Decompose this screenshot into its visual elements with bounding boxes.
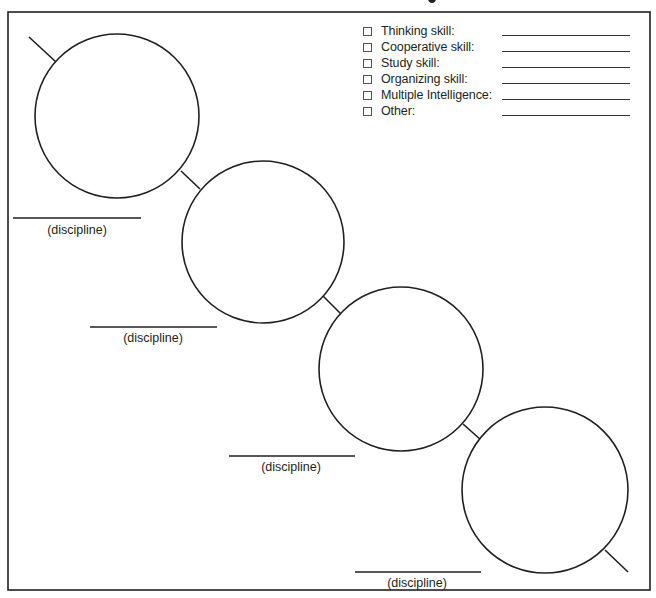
checklist-item-organizing-skill: Organizing skill: [358,71,638,87]
skill-checklist: Thinking skill: Cooperative skill: Study… [358,23,638,119]
organizing-skill-checkbox[interactable] [363,75,372,84]
cooperative-skill-checkbox[interactable] [363,43,372,52]
study-skill-label: Study skill: [381,55,440,71]
chain-connector-2-3 [323,296,341,314]
discipline-caption-4: (discipline) [387,576,447,590]
other-line[interactable] [502,115,630,116]
checklist-item-cooperative-skill: Cooperative skill: [358,39,638,55]
checklist-item-other: Other: [358,103,638,119]
cooperative-skill-line[interactable] [502,51,630,52]
concept-circle-4[interactable] [462,407,628,573]
organizing-skill-label: Organizing skill: [381,71,468,87]
cooperative-skill-label: Cooperative skill: [381,39,474,55]
chain-connector-1-2 [181,171,200,189]
other-checkbox[interactable] [363,107,372,116]
checklist-item-thinking-skill: Thinking skill: [358,23,638,39]
discipline-caption-3: (discipline) [261,460,321,474]
chain-end-connector [605,550,628,572]
concept-circle-3[interactable] [319,287,483,451]
concept-circle-2[interactable] [182,161,344,323]
study-skill-checkbox[interactable] [363,59,372,68]
multiple-intelligence-line[interactable] [502,99,630,100]
chain-start-connector [29,37,56,62]
study-skill-line[interactable] [502,67,630,68]
discipline-caption-2: (discipline) [123,331,183,345]
thinking-skill-label: Thinking skill: [381,23,455,39]
chain-connector-3-4 [463,424,481,440]
multiple-intelligence-label: Multiple Intelligence: [381,87,492,103]
other-label: Other: [381,103,415,119]
thinking-skill-line[interactable] [502,35,630,36]
organizing-skill-line[interactable] [502,83,630,84]
thinking-skill-checkbox[interactable] [363,27,372,36]
concept-circle-1[interactable] [35,34,199,198]
checklist-item-multiple-intelligence: Multiple Intelligence: [358,87,638,103]
discipline-caption-1: (discipline) [47,223,107,237]
checklist-item-study-skill: Study skill: [358,55,638,71]
multiple-intelligence-checkbox[interactable] [363,91,372,100]
